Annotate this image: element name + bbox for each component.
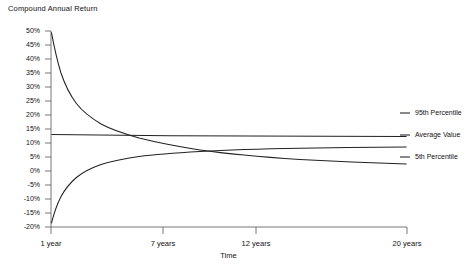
x-tick-label: 1 year <box>41 239 62 248</box>
axis-lines <box>51 31 407 227</box>
x-tick-label: 12 years <box>242 239 271 248</box>
y-axis-ticks <box>45 31 51 227</box>
y-tick-label: -10% <box>12 195 40 202</box>
y-tick-label: -15% <box>12 209 40 216</box>
y-tick-label: 10% <box>12 139 40 146</box>
data-series <box>51 32 406 223</box>
y-tick-label: 40% <box>12 55 40 62</box>
chart-plot-area <box>0 0 473 273</box>
series-line-average-value <box>51 135 406 137</box>
y-tick-label: 30% <box>12 83 40 90</box>
series-line-95th-percentile <box>51 32 406 164</box>
y-tick-label: 25% <box>12 97 40 104</box>
chart-container: Compound Annual Return <box>0 0 473 273</box>
x-tick-label: 20 years <box>393 239 422 248</box>
series-legend-marks <box>400 113 410 157</box>
x-axis-title-text: Time <box>220 251 236 260</box>
series-line-5th-percentile <box>51 147 406 223</box>
x-axis-ticks <box>51 227 407 234</box>
series-label-average-value: Average Value <box>415 131 460 138</box>
y-tick-label: 45% <box>12 41 40 48</box>
y-tick-label: -20% <box>12 223 40 230</box>
y-tick-label: -5% <box>12 181 40 188</box>
y-tick-label: 0% <box>12 167 40 174</box>
y-tick-label: 20% <box>12 111 40 118</box>
y-tick-label: 5% <box>12 153 40 160</box>
series-label-5th-percentile: 5th Percentile <box>415 153 458 160</box>
y-tick-label: 50% <box>12 27 40 34</box>
x-tick-label: 7 years <box>151 239 176 248</box>
x-axis-title: Time <box>0 251 473 260</box>
y-tick-label: 15% <box>12 125 40 132</box>
y-tick-label: 35% <box>12 69 40 76</box>
series-label-95th-percentile: 95th Percentile <box>415 109 462 116</box>
